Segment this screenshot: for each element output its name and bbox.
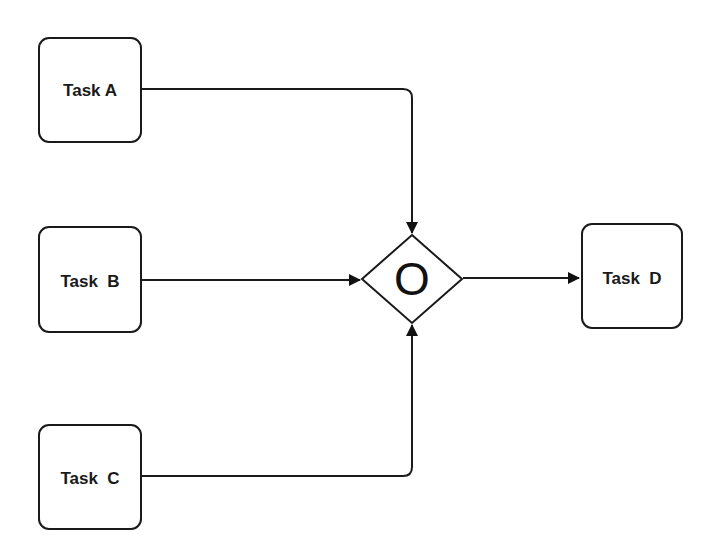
edge-task-c-to-gateway — [142, 325, 412, 476]
edge-task-a-to-gateway — [142, 89, 412, 233]
task-b-label: Task B — [40, 272, 140, 292]
task-a-node[interactable]: Task A — [38, 37, 142, 143]
task-c-label: Task C — [40, 469, 140, 489]
task-b-node[interactable]: Task B — [38, 226, 142, 333]
task-a-label: Task A — [40, 81, 140, 101]
inclusive-gateway-icon: O — [394, 256, 430, 302]
task-c-node[interactable]: Task C — [38, 424, 142, 530]
task-d-label: Task D — [583, 269, 681, 289]
task-d-node[interactable]: Task D — [581, 223, 683, 329]
